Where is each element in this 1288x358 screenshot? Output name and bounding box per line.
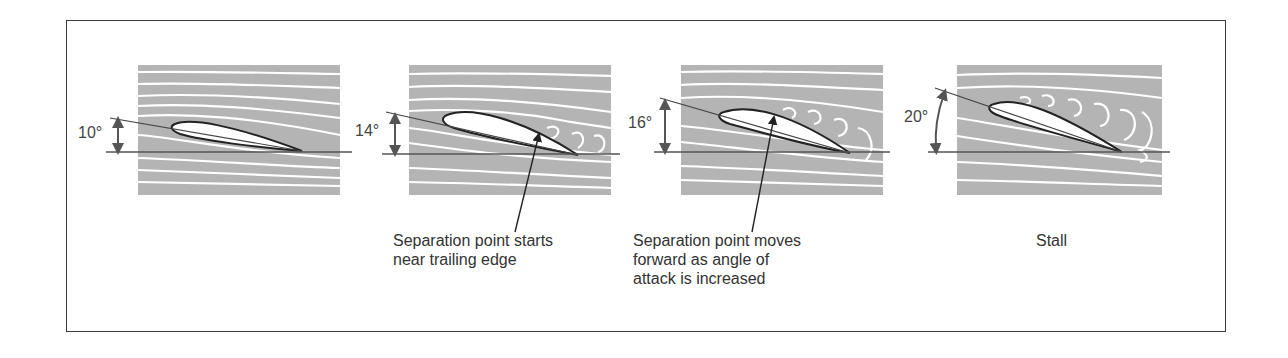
angle-label-10: 10° (78, 124, 102, 142)
angle-label-16: 16° (628, 114, 652, 132)
angle-arrow (936, 94, 944, 149)
panel-10-degrees (106, 65, 352, 195)
panel-20-degrees (928, 65, 1170, 195)
airfoil-diagram (0, 0, 1288, 358)
angle-label-20: 20° (904, 108, 928, 126)
angle-label-14: 14° (355, 122, 379, 140)
caption-separation-forward: Separation point moves forward as angle … (633, 231, 801, 288)
caption-stall: Stall (1036, 231, 1067, 250)
panel-14-degrees (382, 65, 620, 232)
panel-16-degrees (654, 65, 890, 232)
caption-separation-start: Separation point starts near trailing ed… (393, 231, 553, 269)
